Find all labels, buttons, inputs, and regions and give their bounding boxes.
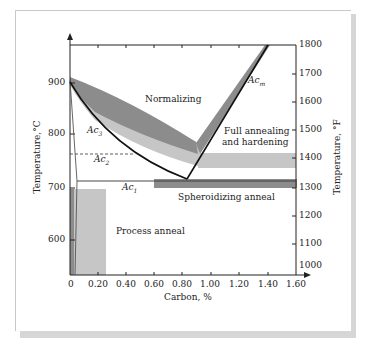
y-right-tick-1800: 1800	[299, 39, 322, 49]
x-tick-1.00: 1.00	[200, 279, 220, 289]
process-anneal-label: Process anneal	[116, 226, 185, 236]
full-annealing-label-line1: Full annealing	[224, 126, 290, 136]
y-left-tick-700: 700	[48, 182, 65, 192]
y-right-tick-1700: 1700	[299, 68, 322, 78]
x-axis-label: Carbon, %	[164, 292, 212, 302]
normalizing-label: Normalizing	[145, 94, 201, 104]
y-right-tick-1400: 1400	[299, 152, 322, 162]
x-tick-1.60: 1.60	[286, 279, 306, 289]
y-right-tick-1000: 1000	[299, 260, 322, 270]
x-tick-0.20: 0.20	[88, 279, 108, 289]
x-tick-1.40: 1.40	[258, 279, 278, 289]
x-tick-0.60: 0.60	[144, 279, 164, 289]
ac1-label: Ac1	[122, 182, 137, 194]
y-left-tick-800: 800	[48, 128, 65, 138]
x-tick-0.40: 0.40	[116, 279, 136, 289]
y-left-axis-label: Temperature,°C	[32, 112, 42, 202]
y-right-axis-label: Temperature, °F	[332, 112, 342, 202]
x-tick-0.80: 0.80	[172, 279, 192, 289]
y-right-tick-1600: 1600	[299, 96, 322, 106]
x-tick-1.20: 1.20	[229, 279, 249, 289]
acm-label: Acm	[248, 75, 265, 87]
spheroidizing-label: Spheroidizing anneal	[178, 192, 275, 202]
ac2-label: Ac2	[94, 154, 109, 166]
y-right-tick-1100: 1100	[299, 238, 322, 248]
y-right-tick-1200: 1200	[299, 210, 322, 220]
x-tick-0: 0	[68, 279, 74, 289]
y-left-tick-600: 600	[48, 234, 65, 244]
y-right-tick-1300: 1300	[299, 182, 322, 192]
y-left-tick-900: 900	[48, 77, 65, 87]
ac3-label: Ac3	[87, 125, 102, 137]
full-annealing-label-line2: and hardening	[222, 137, 289, 147]
y-right-tick-1500: 1500	[299, 124, 322, 134]
